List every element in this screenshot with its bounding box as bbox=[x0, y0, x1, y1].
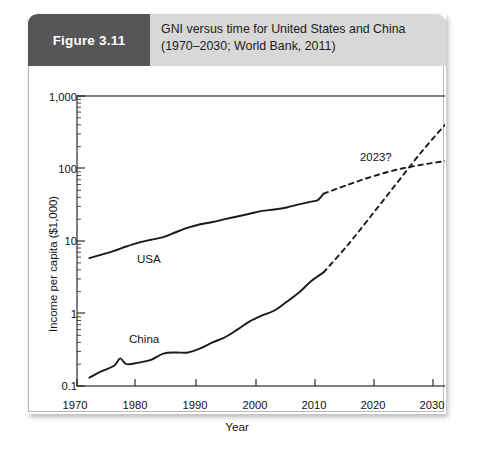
y-tick-label-1: 1 bbox=[29, 308, 77, 320]
series-path-usa-projection bbox=[324, 161, 445, 194]
figure-caption-line-2: (1970–2030; World Bank, 2011) bbox=[161, 38, 439, 55]
x-tick-label-1980: 1980 bbox=[112, 399, 158, 411]
figure-body: Income per capita ($1,000) 1,000 100 10 … bbox=[28, 66, 444, 412]
chart-svg bbox=[29, 66, 445, 412]
y-tick-label-0.1: 0.1 bbox=[29, 380, 77, 392]
series-path-usa bbox=[89, 194, 323, 259]
x-tick-label-2010: 2010 bbox=[291, 399, 337, 411]
y-tick-label-1000: 1,000 bbox=[29, 91, 77, 103]
x-tick-label-1990: 1990 bbox=[172, 399, 218, 411]
figure-number-label: Figure 3.11 bbox=[53, 33, 126, 48]
x-tick-label-2030: 2030 bbox=[409, 399, 455, 411]
annotation-2023: 2023? bbox=[360, 151, 392, 163]
series-label-usa: USA bbox=[137, 252, 161, 265]
series-path-china-projection bbox=[324, 123, 445, 273]
figure-caption-line-1: GNI versus time for United States and Ch… bbox=[161, 21, 439, 38]
x-tick-label-2020: 2020 bbox=[350, 399, 396, 411]
chart-plot-area: Income per capita ($1,000) 1,000 100 10 … bbox=[29, 66, 445, 412]
x-tick-label-2000: 2000 bbox=[232, 399, 278, 411]
figure-number-badge: Figure 3.11 bbox=[28, 14, 150, 66]
x-axis-title: Year bbox=[29, 420, 445, 433]
figure-card: Figure 3.11 GNI versus time for United S… bbox=[28, 14, 446, 414]
y-tick-label-100: 100 bbox=[29, 163, 77, 175]
y-tick-label-10: 10 bbox=[29, 235, 77, 247]
y-axis-minor-ticks bbox=[77, 99, 81, 364]
series-path-china bbox=[89, 272, 323, 377]
x-axis-ticks bbox=[77, 379, 433, 386]
series-label-china: China bbox=[129, 332, 159, 345]
x-tick-label-1970: 1970 bbox=[52, 399, 98, 411]
figure-header: Figure 3.11 GNI versus time for United S… bbox=[28, 14, 446, 66]
figure-caption: GNI versus time for United States and Ch… bbox=[161, 21, 439, 54]
